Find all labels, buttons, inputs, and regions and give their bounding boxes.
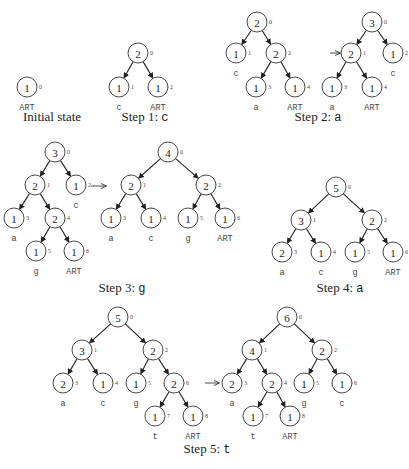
caption-step4: Step 4: a — [317, 280, 364, 296]
symbol-label: ART — [217, 234, 232, 244]
node-weight: 2 — [150, 345, 156, 357]
tree-node: 16 — [64, 241, 89, 261]
caption-step2-after: Step 2: a — [295, 109, 342, 125]
tree-node: 21 — [121, 175, 146, 195]
tree-edge-arrow — [306, 229, 315, 244]
node-index: 1 — [131, 84, 134, 90]
node-index: 3 — [268, 84, 271, 90]
node-weight: 1 — [301, 378, 307, 390]
tree-node: 14 — [362, 77, 387, 97]
node-index: 3 — [244, 380, 247, 386]
node-index: 4 — [307, 84, 310, 90]
tree-node: 10 — [17, 77, 42, 97]
tree-edge-arrow — [257, 359, 266, 374]
node-index: 8 — [205, 413, 208, 419]
tree-edge-arrow — [176, 159, 199, 179]
tree-edge-arrow — [357, 30, 367, 44]
tree-node: 16 — [332, 373, 357, 393]
tree-node: 22 — [362, 210, 387, 230]
tree-node: 60 — [277, 307, 302, 327]
node-weight: 2 — [171, 378, 177, 390]
tree-edge-arrow — [40, 194, 49, 209]
tree-node: 41 — [242, 340, 267, 360]
tree-edge-arrow — [211, 194, 220, 209]
tree-edge-arrow — [68, 359, 77, 374]
tree-edge-arrow — [158, 358, 168, 374]
tree-node: 26 — [164, 373, 189, 393]
node-index: 0 — [67, 149, 70, 155]
symbol-label: c — [339, 399, 344, 409]
caption-step3-after: Step 3: g — [99, 280, 146, 296]
node-weight: 3 — [298, 215, 304, 227]
tree-node: 22 — [196, 175, 221, 195]
symbol-label: c — [390, 69, 395, 79]
node-weight: 6 — [284, 312, 290, 324]
tree-node: 21 — [341, 43, 366, 63]
node-index: 0 — [150, 50, 153, 56]
tree-edge-arrow — [281, 62, 290, 78]
node-index: 5 — [200, 215, 203, 221]
node-weight: 1 — [390, 247, 396, 259]
tree-edge-arrow — [242, 30, 252, 44]
node-weight: 1 — [253, 82, 259, 94]
tree-node: 22 — [266, 43, 291, 63]
node-index: 6 — [237, 215, 240, 221]
node-index: 2 — [218, 182, 221, 188]
tree-edge-arrow — [139, 159, 161, 178]
tree-edge-arrow — [136, 194, 145, 209]
tree-node: 14 — [311, 242, 336, 262]
node-index: 1 — [94, 347, 97, 353]
tree-node: 50 — [108, 307, 133, 327]
tree-edge-arrow — [60, 160, 70, 176]
node-index: 4 — [384, 84, 387, 90]
node-index: 5 — [48, 248, 51, 254]
node-weight: 2 — [32, 180, 38, 192]
tree-node: 18 — [280, 406, 305, 426]
tree-node: 30 — [45, 142, 70, 162]
tree-edge-arrow — [41, 227, 50, 242]
tree-edge-arrow — [309, 359, 317, 374]
node-weight: 2 — [60, 378, 66, 390]
tree-node: 23 — [222, 373, 247, 393]
tree-node: 30 — [362, 12, 387, 32]
tree-node: 14 — [141, 208, 166, 228]
tree-edge-arrow — [327, 359, 336, 374]
tree-edge-arrow — [193, 194, 201, 209]
symbol-label: c — [233, 69, 238, 79]
symbol-label: a — [279, 268, 284, 278]
node-weight: 1 — [329, 82, 335, 94]
node-index: 3 — [123, 215, 126, 221]
tree-node: 22 — [312, 340, 337, 360]
node-index: 1 — [313, 217, 316, 223]
node-weight: 3 — [52, 147, 58, 159]
node-index: 5 — [367, 249, 370, 255]
panel-step5-before: 503122231415261718 — [53, 307, 208, 426]
tree-node: 18 — [183, 406, 208, 426]
tree-edge-arrow — [378, 228, 388, 243]
node-index: 2 — [88, 182, 91, 188]
huffman-tree-figure: 1020111220112213143021121314302112132415… — [0, 0, 409, 469]
node-index: 6 — [354, 380, 357, 386]
node-weight: 1 — [352, 247, 358, 259]
nodes-layer: 1020111220112213143021121314302112132415… — [4, 12, 408, 426]
node-index: 4 — [67, 215, 70, 221]
symbol-label: c — [148, 234, 153, 244]
node-index: 2 — [288, 50, 291, 56]
node-index: 7 — [265, 413, 268, 419]
node-weight: 1 — [292, 82, 298, 94]
tree-edge-arrow — [360, 229, 367, 243]
node-weight: 1 — [287, 411, 293, 423]
symbol-label: ART — [282, 432, 297, 442]
node-index: 0 — [384, 19, 387, 25]
node-weight: 1 — [190, 411, 196, 423]
node-index: 5 — [148, 380, 151, 386]
node-weight: 1 — [11, 213, 17, 225]
node-weight: 2 — [348, 48, 354, 60]
tree-node: 17 — [243, 406, 268, 426]
node-weight: 2 — [279, 247, 285, 259]
node-weight: 1 — [148, 213, 154, 225]
tree-edge-arrow — [294, 324, 314, 343]
tree-edge-arrow — [90, 324, 111, 343]
node-weight: 2 — [319, 345, 325, 357]
tree-node: 15 — [178, 208, 203, 228]
